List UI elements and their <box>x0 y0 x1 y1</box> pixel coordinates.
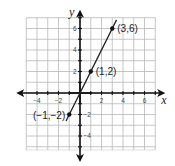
y-axis-label: y <box>68 5 75 19</box>
coordinate-plane: −4−2246−4−2246 (−1,−2)(1,2)(3,6) x y <box>0 0 175 166</box>
x-tick-label: 2 <box>100 97 104 104</box>
y-tick-label: −2 <box>84 111 92 118</box>
data-point <box>67 112 71 116</box>
x-tick-label: −4 <box>33 97 41 104</box>
data-point-label: (−1,−2) <box>33 110 65 121</box>
data-point-label: (1,2) <box>96 66 117 77</box>
y-tick-label: 6 <box>73 25 77 32</box>
x-tick-label: 6 <box>143 97 147 104</box>
data-series: (−1,−2)(1,2)(3,6) <box>33 20 138 121</box>
data-point <box>89 69 93 73</box>
data-point <box>110 26 114 30</box>
y-tick-label: −4 <box>84 132 92 139</box>
y-tick-label: 4 <box>73 46 77 53</box>
grid-lines <box>26 18 155 150</box>
x-axis-label: x <box>160 93 167 107</box>
x-tick-label: 4 <box>121 97 125 104</box>
data-point-label: (3,6) <box>117 23 138 34</box>
y-tick-label: 2 <box>73 68 77 75</box>
x-tick-label: −2 <box>55 97 63 104</box>
